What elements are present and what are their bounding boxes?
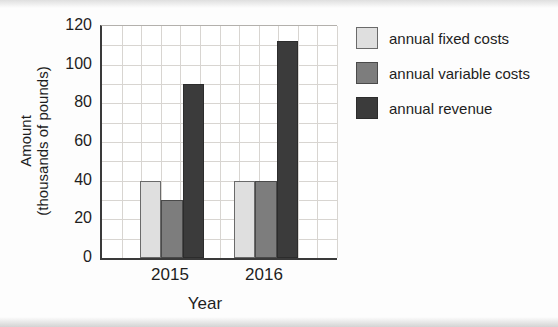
legend-swatch-annual-fixed-costs xyxy=(356,27,378,49)
y-tick-label: 120 xyxy=(38,17,92,33)
x-axis-title: Year xyxy=(145,294,265,314)
y-tick-label: 100 xyxy=(38,56,92,72)
bar-2015-annual-revenue xyxy=(183,84,205,258)
grid-line-horizontal xyxy=(102,84,337,85)
y-tick-label: 80 xyxy=(38,94,92,110)
legend-item: annual variable costs xyxy=(356,62,530,84)
grid-line-vertical xyxy=(337,26,338,258)
grid-line-horizontal xyxy=(102,219,337,220)
bar-2016-annual-variable-costs xyxy=(255,181,277,258)
bar-2015-annual-variable-costs xyxy=(161,200,183,258)
bar-2015-annual-fixed-costs xyxy=(140,181,162,258)
grid-line-horizontal xyxy=(102,200,337,201)
grid-line-horizontal xyxy=(102,123,337,124)
grid-line-horizontal xyxy=(102,239,337,240)
legend-label: annual revenue xyxy=(389,100,492,117)
grid-line-horizontal xyxy=(102,161,337,162)
y-tick-label: 20 xyxy=(38,210,92,226)
legend-item: annual fixed costs xyxy=(356,27,530,49)
legend-label: annual variable costs xyxy=(389,65,530,82)
y-tick-label: 60 xyxy=(38,133,92,149)
grid-line-horizontal xyxy=(102,45,337,46)
bar-2016-annual-revenue xyxy=(277,41,299,258)
grid-line-horizontal xyxy=(102,103,337,104)
legend-label: annual fixed costs xyxy=(389,30,509,47)
legend-swatch-annual-revenue xyxy=(356,97,378,119)
bar-2016-annual-fixed-costs xyxy=(234,181,256,258)
y-tick-label: 0 xyxy=(38,249,92,265)
grid-line-horizontal xyxy=(102,65,337,66)
chart-region: Amount (thousands of pounds) 02040608010… xyxy=(0,0,558,327)
plot-area xyxy=(100,25,337,260)
grid-line-horizontal xyxy=(102,142,337,143)
y-tick-label: 40 xyxy=(38,172,92,188)
page: Amount (thousands of pounds) 02040608010… xyxy=(0,0,558,327)
x-tick-label-2015: 2015 xyxy=(130,265,210,285)
legend-item: annual revenue xyxy=(356,97,530,119)
y-axis-title-line1: Amount xyxy=(17,66,34,215)
x-tick-label-2016: 2016 xyxy=(224,265,304,285)
legend-swatch-annual-variable-costs xyxy=(356,62,378,84)
legend: annual fixed costsannual variable costsa… xyxy=(356,27,530,132)
grid-line-horizontal xyxy=(102,181,337,182)
